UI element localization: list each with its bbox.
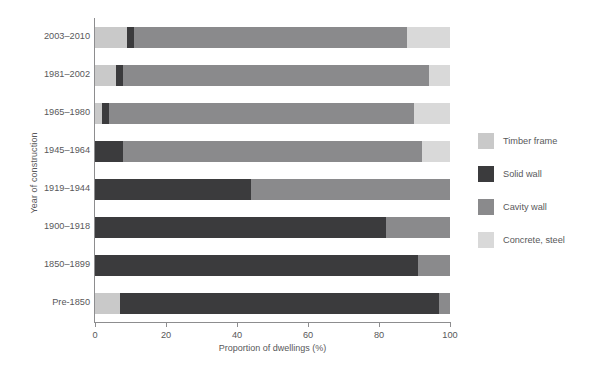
bar-row <box>95 65 450 86</box>
y-axis-tick-label: 1945–1964 <box>4 145 90 155</box>
y-axis-tick-label: 1900–1918 <box>4 221 90 231</box>
bar-segment <box>95 255 418 276</box>
bar-segment <box>422 141 450 162</box>
bar-segment <box>95 141 123 162</box>
y-axis-tick-label: 2003–2010 <box>4 31 90 41</box>
stacked-bar-chart: Year of construction 2003–20101981–20021… <box>0 0 593 379</box>
bar-segment <box>429 65 450 86</box>
bar-segment <box>116 65 123 86</box>
x-axis-tick-label: 80 <box>359 330 399 340</box>
x-axis-tick-mark <box>308 323 309 327</box>
x-axis-tick-mark <box>237 323 238 327</box>
legend-item: Solid wall <box>478 157 590 190</box>
x-axis-title: Proportion of dwellings (%) <box>95 343 450 353</box>
legend-item: Concrete, steel <box>478 223 590 256</box>
bar-segment <box>95 293 120 314</box>
bar-segment <box>95 65 116 86</box>
x-axis-tick-mark <box>379 323 380 327</box>
bar-row <box>95 217 450 238</box>
bar-row <box>95 27 450 48</box>
y-axis-tick-labels: 2003–20101981–20021965–19801945–19641919… <box>0 18 90 322</box>
legend-swatch <box>478 232 494 248</box>
x-axis-tick-label: 40 <box>217 330 257 340</box>
legend-item: Timber frame <box>478 124 590 157</box>
bar-segment <box>123 65 428 86</box>
bar-segment <box>251 179 450 200</box>
bar-segment <box>95 103 102 124</box>
x-axis-tick-label: 100 <box>430 330 470 340</box>
bar-segment <box>407 27 450 48</box>
y-axis-tick-label: 1965–1980 <box>4 107 90 117</box>
y-axis-tick-label: 1981–2002 <box>4 69 90 79</box>
bar-row <box>95 103 450 124</box>
legend-label: Timber frame <box>503 136 557 146</box>
bar-segment <box>95 217 386 238</box>
bar-segment <box>123 141 421 162</box>
x-axis-tick-label: 60 <box>288 330 328 340</box>
x-axis-tick-mark <box>95 323 96 327</box>
bar-segment <box>414 103 450 124</box>
bar-row <box>95 141 450 162</box>
bar-segment <box>418 255 450 276</box>
bar-segment <box>95 179 251 200</box>
bar-row <box>95 179 450 200</box>
legend-label: Solid wall <box>503 169 542 179</box>
bar-segment <box>102 103 109 124</box>
bar-segment <box>127 27 134 48</box>
x-axis-tick-label: 20 <box>146 330 186 340</box>
legend-label: Cavity wall <box>503 202 547 212</box>
bar-segment <box>439 293 450 314</box>
bar-segment <box>109 103 414 124</box>
legend-label: Concrete, steel <box>503 235 565 245</box>
legend-item: Cavity wall <box>478 190 590 223</box>
chart-legend: Timber frameSolid wallCavity wallConcret… <box>478 124 590 256</box>
bar-row <box>95 293 450 314</box>
x-axis-tick-mark <box>450 323 451 327</box>
plot-area <box>95 18 450 322</box>
bar-segment <box>386 217 450 238</box>
y-axis-tick-label: 1919–1944 <box>4 183 90 193</box>
legend-swatch <box>478 199 494 215</box>
bar-segment <box>120 293 440 314</box>
bar-segment <box>134 27 407 48</box>
legend-swatch <box>478 133 494 149</box>
y-axis-tick-label: 1850–1899 <box>4 259 90 269</box>
bar-segment <box>95 27 127 48</box>
legend-swatch <box>478 166 494 182</box>
bar-row <box>95 255 450 276</box>
x-axis-tick-label: 0 <box>75 330 115 340</box>
x-axis-tick-mark <box>166 323 167 327</box>
y-axis-tick-label: Pre-1850 <box>4 297 90 307</box>
